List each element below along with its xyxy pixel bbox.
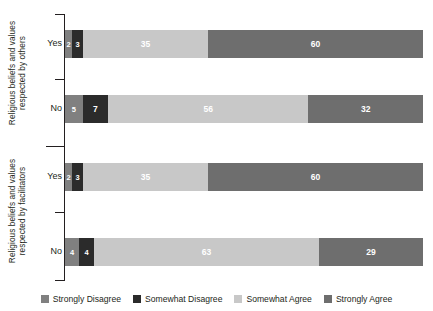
legend-label: Strongly Agree [336,294,392,304]
plot-area: 233560 575632 233560 446329 [65,0,423,287]
bar-segment-somewhat-agree: 63 [94,238,320,266]
legend-item-strongly-agree[interactable]: Strongly Agree [324,294,392,304]
axis-bracket-bottom [55,280,65,281]
legend-swatch-icon [234,295,242,303]
legend-label: Somewhat Agree [246,294,311,304]
bar-segment-somewhat-agree: 35 [83,30,208,58]
stacked-bar-chart: Religious beliefs and values respected b… [0,0,433,311]
bar-segment-strongly-agree: 60 [208,163,423,191]
bar-row-others-no: 575632 [65,95,423,123]
axis-tick-group-2 [55,212,65,213]
legend-item-strongly-disagree[interactable]: Strongly Disagree [41,294,121,304]
legend-swatch-icon [41,295,49,303]
legend-item-somewhat-disagree[interactable]: Somewhat Disagree [133,294,222,304]
chart-legend: Strongly DisagreeSomewhat DisagreeSomewh… [0,289,433,309]
category-label-facilitators-no: No [18,247,62,256]
bar-segment-strongly-agree: 29 [319,238,423,266]
bar-segment-somewhat-disagree: 7 [83,95,108,123]
category-label-facilitators-yes: Yes [18,172,62,181]
legend-label: Strongly Disagree [53,294,121,304]
bar-segment-strongly-disagree: 2 [65,163,72,191]
axis-tick-group-1 [55,79,65,80]
axis-bracket-top [55,14,65,15]
legend-swatch-icon [324,295,332,303]
bar-segment-strongly-agree: 32 [308,95,423,123]
bar-row-facilitators-yes: 233560 [65,163,423,191]
bar-row-others-yes: 233560 [65,30,423,58]
bar-segment-strongly-disagree: 4 [65,238,79,266]
bar-segment-somewhat-disagree: 3 [72,30,83,58]
bar-segment-somewhat-agree: 35 [83,163,208,191]
legend-label: Somewhat Disagree [145,294,222,304]
legend-swatch-icon [133,295,141,303]
bar-row-facilitators-no: 446329 [65,238,423,266]
bar-segment-somewhat-disagree: 3 [72,163,83,191]
bar-segment-somewhat-agree: 56 [108,95,308,123]
bar-segment-strongly-disagree: 2 [65,30,72,58]
bar-segment-strongly-agree: 60 [208,30,423,58]
axis-group-divider [46,146,65,147]
legend-item-somewhat-agree[interactable]: Somewhat Agree [234,294,311,304]
category-label-others-no: No [18,104,62,113]
category-label-others-yes: Yes [18,39,62,48]
bar-segment-somewhat-disagree: 4 [79,238,93,266]
bar-segment-strongly-disagree: 5 [65,95,83,123]
category-axis: Yes No Yes No [0,0,66,287]
